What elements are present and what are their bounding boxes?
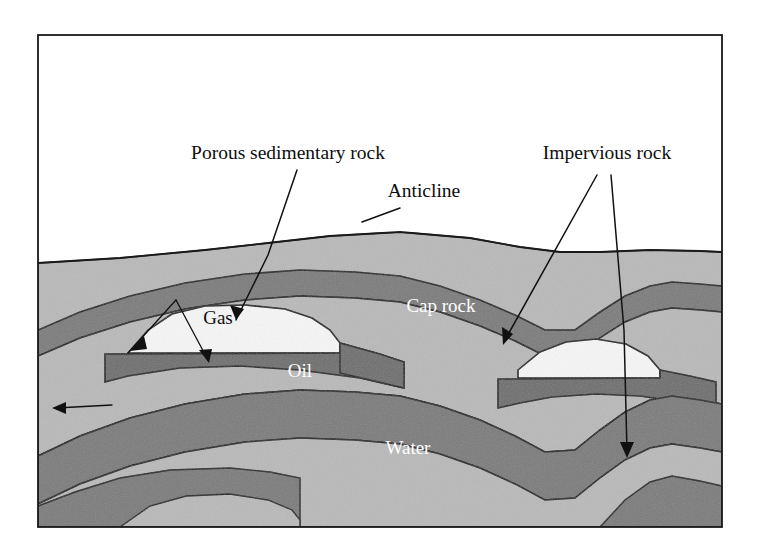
label-gas: Gas	[203, 307, 233, 328]
label-oil: Oil	[288, 360, 312, 381]
geological-cross-section-diagram: Porous sedimentary rock Anticline Imperv…	[0, 0, 760, 557]
label-impervious-rock: Impervious rock	[543, 142, 672, 163]
figure-root: Porous sedimentary rock Anticline Imperv…	[0, 0, 760, 557]
label-cap-rock: Cap rock	[406, 295, 476, 316]
label-porous-sedimentary-rock: Porous sedimentary rock	[191, 142, 385, 163]
label-water: Water	[386, 437, 432, 458]
label-anticline: Anticline	[388, 180, 461, 201]
